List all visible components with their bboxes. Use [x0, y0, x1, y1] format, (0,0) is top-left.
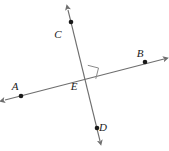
geometry-canvas: A B C D E	[0, 0, 169, 151]
point-label-a: A	[11, 80, 19, 92]
geometry-figure: A B C D E	[0, 0, 169, 151]
point-label-b: B	[137, 47, 144, 59]
point-b-dot	[143, 60, 148, 65]
point-label-c: C	[54, 28, 62, 40]
ray-CD-segment	[68, 10, 100, 141]
point-label-e: E	[70, 80, 78, 92]
point-label-d: D	[98, 121, 107, 133]
point-a-dot	[19, 94, 24, 99]
point-c-dot	[69, 20, 74, 25]
line-CD	[68, 10, 100, 141]
